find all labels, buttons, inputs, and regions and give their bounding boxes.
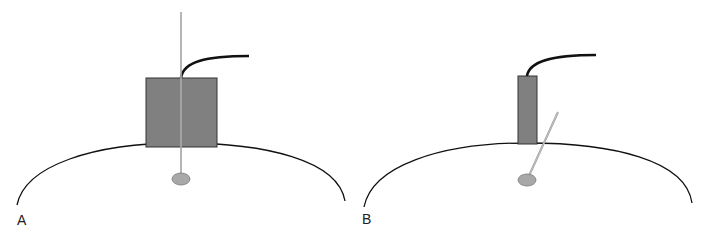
panel-label-a: A: [17, 212, 27, 228]
target-b: [518, 174, 536, 186]
panel-label-b: B: [362, 211, 371, 227]
cable-b: [527, 55, 596, 76]
diagram-figure: A B: [0, 0, 705, 234]
target-a: [172, 173, 190, 185]
panel-a: A: [17, 12, 345, 228]
probe-block-b: [518, 76, 537, 144]
panel-b: B: [362, 55, 692, 227]
cable-a: [181, 56, 249, 78]
